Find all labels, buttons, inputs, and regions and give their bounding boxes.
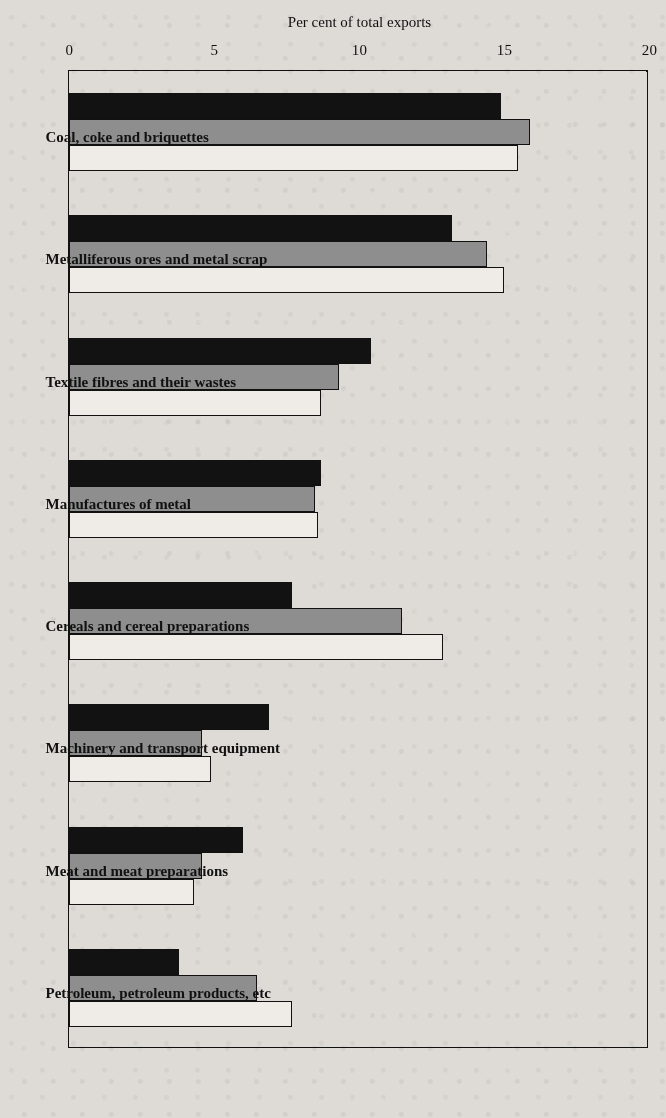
- category-label: Machinery and transport equipment: [46, 740, 281, 757]
- category-label: Meat and meat preparations: [46, 862, 229, 879]
- bar-0: [69, 827, 243, 853]
- bar-2: [69, 512, 318, 538]
- bar-0: [69, 338, 371, 364]
- plot-area: [68, 70, 648, 1048]
- bar-2: [69, 634, 443, 660]
- category-label: Metalliferous ores and metal scrap: [46, 251, 268, 268]
- tick-label-10: 10: [346, 42, 374, 59]
- tick-label-5: 5: [201, 42, 229, 59]
- value-axis-title: Per cent of total exports: [260, 14, 460, 31]
- chart-stage: 05101520 Per cent of total exports Coal,…: [0, 0, 666, 1118]
- bar-series-container: [69, 71, 647, 1047]
- bar-0: [69, 582, 292, 608]
- bar-2: [69, 756, 211, 782]
- category-label: Petroleum, petroleum products, etc: [46, 984, 271, 1001]
- bar-0: [69, 704, 269, 730]
- category-label: Cereals and cereal preparations: [46, 618, 250, 635]
- category-label: Coal, coke and briquettes: [46, 129, 209, 146]
- bar-0: [69, 949, 179, 975]
- bar-2: [69, 267, 504, 293]
- bar-0: [69, 460, 321, 486]
- bar-2: [69, 1001, 292, 1027]
- bar-2: [69, 879, 194, 905]
- tick-label-15: 15: [491, 42, 519, 59]
- bar-2: [69, 145, 519, 171]
- tick-label-20: 20: [636, 42, 664, 59]
- tick-label-0: 0: [56, 42, 84, 59]
- category-label: Manufactures of metal: [46, 495, 192, 512]
- bar-0: [69, 93, 501, 119]
- bar-2: [69, 390, 321, 416]
- category-label: Textile fibres and their wastes: [46, 373, 237, 390]
- bar-0: [69, 215, 452, 241]
